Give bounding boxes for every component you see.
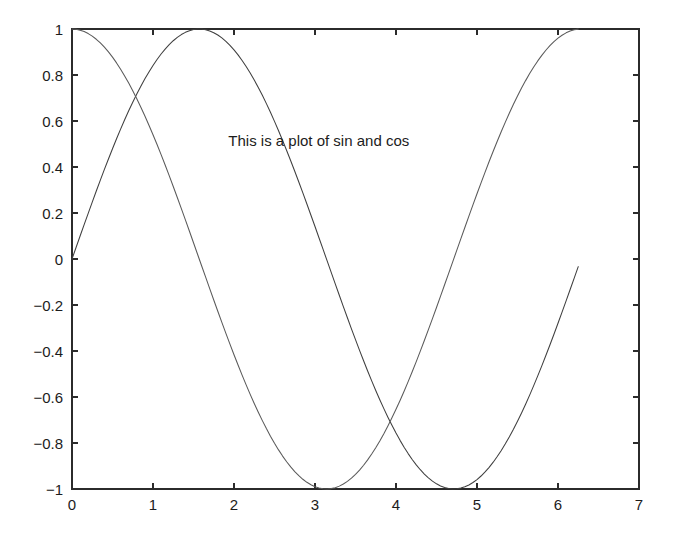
x-axis-tick-label: 0 [68,496,76,513]
plot-annotations: This is a plot of sin and cos [228,132,409,149]
y-axis-tick-label: 0.2 [42,205,63,222]
x-axis-tick-label: 2 [230,496,238,513]
x-axis-tick-label: 5 [473,496,481,513]
figure-canvas: 01234567 −1−0.8−0.6−0.4−0.200.20.40.60.8… [0,0,678,541]
y-axis-tick-label: 0.4 [42,159,63,176]
y-axis-tick-label: −1 [46,481,63,498]
x-axis-tick-label: 1 [149,496,157,513]
y-axis-tick-label: −0.8 [33,435,63,452]
y-axis-tick-label: 0.8 [42,67,63,84]
plot-svg: 01234567 −1−0.8−0.6−0.4−0.200.20.40.60.8… [0,0,678,541]
x-axis-tick-label: 6 [554,496,562,513]
x-axis-tick-label: 7 [635,496,643,513]
y-axis-tick-label: −0.4 [33,343,63,360]
figure-background [0,0,678,541]
y-axis-tick-label: −0.6 [33,389,63,406]
y-axis-tick-label: −0.2 [33,297,63,314]
plot-annotation-text: This is a plot of sin and cos [228,132,409,149]
x-axis-tick-label: 3 [311,496,319,513]
y-axis-tick-label: 0 [55,251,63,268]
x-axis-tick-label: 4 [392,496,400,513]
y-axis-tick-label: 1 [55,21,63,38]
y-axis-tick-label: 0.6 [42,113,63,130]
